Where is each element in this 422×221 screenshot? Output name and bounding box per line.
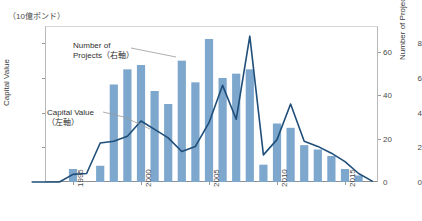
y-right-tick-60: 60 — [383, 48, 409, 57]
y-right-tick-0: 0 — [383, 178, 409, 187]
y-axis-left-title: Capital Value — [2, 38, 11, 128]
bar — [327, 156, 335, 182]
x-tick-2000: 2000 — [144, 169, 153, 187]
bar — [96, 166, 104, 182]
y-left-tick-6: 6 — [388, 73, 422, 82]
y-right-tickmark-60 — [378, 52, 381, 53]
y-right-tickmark-20 — [378, 139, 381, 140]
bar — [110, 85, 118, 183]
bar — [123, 69, 131, 182]
bar — [246, 69, 254, 182]
y-right-tick-20: 20 — [383, 134, 409, 143]
y-left-tick-4: 4 — [388, 108, 422, 117]
bar — [314, 150, 322, 183]
annotation-capital-value: Capital Value （左軸） — [47, 108, 94, 128]
bar — [300, 145, 308, 182]
x-tick-1995: 1995 — [76, 169, 85, 187]
x-tick-2010: 2010 — [280, 169, 289, 187]
bar — [259, 165, 267, 182]
y-left-tick-2: 2 — [388, 143, 422, 152]
x-tickmark-2015 — [345, 182, 346, 185]
x-tick-2005: 2005 — [212, 169, 221, 187]
x-tickmark-2005 — [209, 182, 210, 185]
x-tickmark-2010 — [277, 182, 278, 185]
bar — [178, 61, 186, 182]
annotation-number-of-projects: Number of Projects（右軸） — [73, 41, 134, 61]
y-right-tickmark-40 — [378, 95, 381, 96]
x-tick-2015: 2015 — [348, 169, 357, 187]
bar — [205, 39, 213, 182]
y-right-tick-40: 40 — [383, 91, 409, 100]
bar — [191, 82, 199, 182]
unit-label: （10億ポンド） — [8, 10, 65, 21]
bar — [232, 74, 240, 182]
chart-container: （10億ポンド） Capital Value 0 2 4 6 8 Number … — [0, 0, 422, 221]
x-tickmark-2000 — [141, 182, 142, 185]
x-tickmark-1995 — [73, 182, 74, 185]
bar — [164, 104, 172, 182]
